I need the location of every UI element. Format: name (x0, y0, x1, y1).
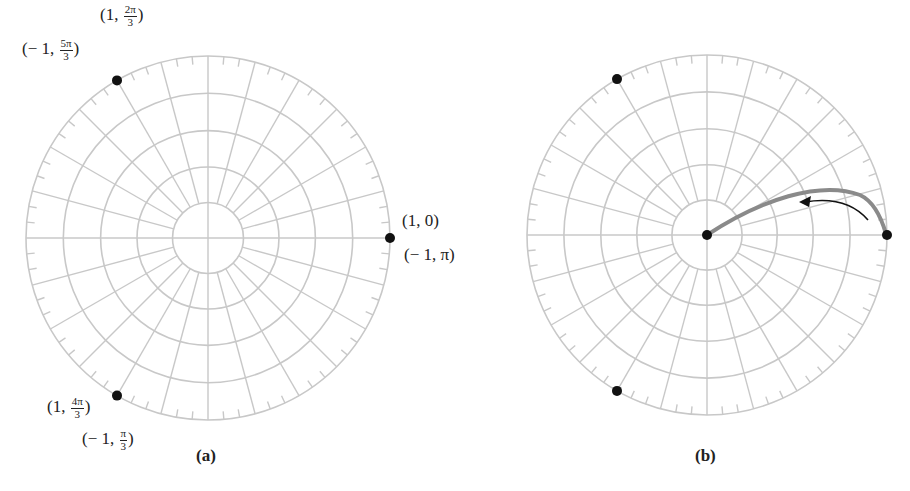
tick-mark (530, 265, 538, 266)
tick-mark (351, 338, 358, 343)
tick-mark (91, 371, 96, 377)
point-label: (1, 2π3) (100, 4, 143, 28)
grid-spoke (32, 191, 174, 229)
tick-mark (146, 402, 149, 410)
tick-mark (37, 298, 45, 301)
grid-spoke (32, 247, 174, 285)
point-label: (− 1, π3) (82, 428, 134, 452)
tick-mark (91, 99, 96, 105)
grid-spoke (242, 247, 384, 285)
tick-mark (848, 334, 855, 339)
polar-point (385, 233, 395, 243)
grid-spoke (161, 272, 199, 414)
grid-spoke (725, 265, 797, 390)
label-text: (1, (47, 397, 70, 416)
grid-spoke (551, 253, 676, 325)
tick-mark (59, 338, 66, 343)
tick-mark (528, 219, 536, 220)
tick-mark (192, 411, 193, 419)
tick-mark (372, 176, 380, 179)
grid-spoke (617, 79, 689, 204)
fraction: π3 (120, 428, 128, 452)
tick-mark (372, 298, 380, 301)
label-text: (− 1, (22, 39, 59, 58)
tick-mark (869, 294, 877, 297)
polar-point (882, 230, 892, 240)
tick-mark (569, 346, 575, 351)
tick-mark (69, 121, 75, 126)
tick-mark (29, 268, 37, 269)
grid-spoke (533, 188, 673, 226)
tick-mark (29, 206, 37, 207)
tick-mark (560, 132, 567, 137)
direction-arrow (805, 201, 868, 220)
tick-mark (379, 206, 387, 207)
fraction: 2π3 (124, 4, 137, 28)
polar-point (112, 75, 122, 85)
tick-mark (238, 409, 239, 417)
grid-spoke (239, 256, 366, 329)
grid-spoke (233, 109, 337, 213)
point-label: (− 1, π) (404, 246, 455, 263)
tick-mark (676, 58, 677, 66)
tick-mark (818, 97, 823, 103)
grid-spoke (732, 108, 834, 210)
tick-mark (379, 268, 387, 269)
tick-mark (780, 391, 783, 398)
tick-mark (238, 59, 239, 67)
tick-mark (192, 57, 193, 65)
grid-spoke (716, 61, 754, 201)
grid-spoke (239, 147, 366, 220)
fraction: 4π3 (71, 396, 84, 420)
tick-mark (863, 308, 870, 311)
tick-mark (43, 312, 50, 315)
tick-mark (848, 132, 855, 137)
grid-spoke (161, 62, 199, 204)
tick-mark (131, 396, 134, 403)
label-text: (− 1, π) (404, 245, 455, 264)
grid-spoke (732, 260, 834, 362)
tick-mark (268, 67, 271, 75)
tick-mark (766, 66, 769, 74)
fraction: 5π3 (60, 38, 73, 62)
grid-spoke (50, 256, 177, 329)
grid-spoke (617, 265, 689, 390)
grid-spoke (226, 269, 299, 396)
tick-mark (818, 367, 823, 373)
tick-mark (569, 119, 575, 124)
tick-mark (223, 57, 224, 65)
tick-mark (530, 204, 538, 205)
tick-mark (591, 97, 596, 103)
grid-spoke (117, 80, 190, 207)
tick-mark (528, 250, 536, 251)
tick-mark (631, 72, 634, 79)
tick-mark (645, 66, 648, 74)
tick-mark (381, 253, 389, 254)
grid-spoke (79, 109, 183, 213)
grid-spoke (580, 108, 682, 210)
tick-mark (351, 134, 358, 139)
tick-mark (538, 173, 546, 176)
grid-spoke (79, 263, 183, 367)
tick-mark (131, 73, 134, 80)
tick-mark (544, 308, 551, 311)
tick-mark (806, 88, 811, 95)
tick-mark (839, 346, 845, 351)
tick-mark (69, 350, 75, 355)
grid-spoke (660, 269, 698, 409)
tick-mark (876, 265, 884, 266)
polar-point (112, 391, 122, 401)
tick-mark (737, 58, 738, 66)
panel-caption-b: (b) (695, 446, 716, 466)
tick-mark (869, 173, 877, 176)
tick-mark (341, 350, 347, 355)
tick-mark (176, 59, 177, 67)
tick-mark (381, 222, 389, 223)
tick-mark (223, 411, 224, 419)
tick-mark (604, 88, 609, 95)
tick-mark (320, 371, 325, 377)
tick-mark (722, 406, 723, 414)
tick-mark (876, 204, 884, 205)
grid-spoke (217, 272, 255, 414)
tick-mark (27, 222, 35, 223)
